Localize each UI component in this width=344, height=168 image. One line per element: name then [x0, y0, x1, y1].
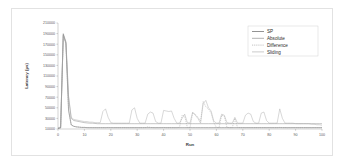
x-tick-label: 100 — [319, 133, 325, 137]
x-tick-label: 20 — [109, 133, 113, 137]
y-axis-title: Latency (µs) — [24, 63, 29, 89]
y-tick-label: 210000 — [43, 21, 55, 25]
y-tick-label: 190000 — [43, 32, 55, 36]
legend-box — [248, 26, 318, 56]
x-tick-label: 50 — [188, 133, 192, 137]
y-tick-label: 170000 — [43, 43, 55, 47]
y-tick-label: 130000 — [43, 64, 55, 68]
chart-figure: 1000030000500007000090000110000130000150… — [11, 8, 333, 156]
y-axis-tick-group: 1000030000500007000090000110000130000150… — [43, 21, 58, 131]
legend-label-absolute: Absolute — [267, 36, 285, 41]
legend-label-sliding: Sliding — [267, 50, 281, 55]
chart-legend: SPAbsoluteDifferenceSliding — [248, 26, 318, 56]
x-tick-label: 30 — [135, 133, 139, 137]
x-tick-label: 90 — [294, 133, 298, 137]
y-tick-label: 10000 — [45, 127, 55, 131]
y-tick-label: 90000 — [45, 85, 55, 89]
plot-area-wrapper: 1000030000500007000090000110000130000150… — [12, 9, 334, 157]
x-axis-tick-group: 0102030405060708090100 — [57, 129, 325, 137]
y-tick-label: 150000 — [43, 53, 55, 57]
y-tick-label: 110000 — [43, 74, 55, 78]
x-tick-label: 10 — [82, 133, 86, 137]
y-tick-label: 70000 — [45, 96, 55, 100]
x-tick-label: 80 — [267, 133, 271, 137]
y-tick-label: 50000 — [45, 106, 55, 110]
x-tick-label: 0 — [57, 133, 59, 137]
latency-line-chart: 1000030000500007000090000110000130000150… — [12, 9, 334, 157]
x-tick-label: 60 — [214, 133, 218, 137]
x-axis-title: Run — [186, 142, 195, 147]
y-tick-label: 30000 — [45, 117, 55, 121]
legend-label-difference: Difference — [267, 43, 288, 48]
x-tick-label: 70 — [241, 133, 245, 137]
legend-label-sp: SP — [267, 29, 273, 34]
x-tick-label: 40 — [162, 133, 166, 137]
